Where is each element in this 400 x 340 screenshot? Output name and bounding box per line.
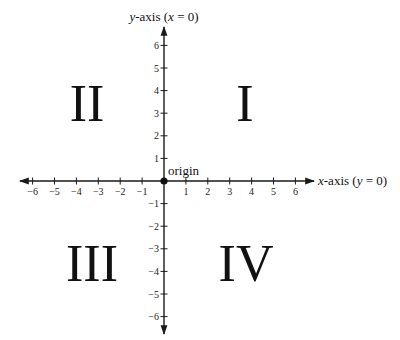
y-tick-label: −6 — [148, 311, 159, 322]
y-tick-label: 1 — [154, 153, 159, 164]
quadrant-i-label: I — [236, 75, 253, 132]
y-tick-label: −2 — [148, 221, 159, 232]
y-tick-label: 6 — [154, 40, 159, 51]
x-tick-label: −2 — [115, 186, 126, 197]
y-axis-title-text: -axis ( — [135, 9, 168, 24]
y-axis-title: y-axis (x = 0) — [127, 9, 198, 24]
y-tick-label: 3 — [154, 108, 159, 119]
x-tick-label: 6 — [293, 186, 298, 197]
y-tick-label: −5 — [148, 289, 159, 300]
x-tick-label: −4 — [71, 186, 82, 197]
y-tick-label: −4 — [148, 266, 159, 277]
x-tick-label: 3 — [227, 186, 232, 197]
y-tick-label: 4 — [154, 85, 159, 96]
coordinate-plane: −6−5−4−3−2−1123456 654321−1−2−3−4−5−6 or… — [0, 0, 400, 340]
x-tick-label: −1 — [137, 186, 148, 197]
y-tick-label: 5 — [154, 63, 159, 74]
quadrant-ii-label: II — [70, 75, 105, 132]
origin-point — [160, 177, 167, 184]
x-tick-label: 5 — [271, 186, 276, 197]
x-tick-label: −3 — [93, 186, 104, 197]
y-tick-label: −1 — [148, 198, 159, 209]
x-axis-title: x-axis (y = 0) — [317, 173, 387, 188]
y-axis-title-eq-rest: = 0) — [174, 9, 199, 24]
quadrant-iii-label: III — [66, 235, 118, 292]
x-tick-label: 2 — [205, 186, 210, 197]
x-tick-label: −5 — [49, 186, 60, 197]
x-tick-label: −6 — [27, 186, 38, 197]
y-tick-label: 2 — [154, 130, 159, 141]
x-axis-title-text: -axis ( — [324, 173, 357, 188]
origin-label: origin — [168, 163, 200, 178]
y-tick-label: −3 — [148, 243, 159, 254]
x-axis-title-eq-rest: = 0) — [362, 173, 387, 188]
quadrant-iv-label: IV — [219, 235, 274, 292]
x-tick-label: 1 — [183, 186, 188, 197]
x-tick-label: 4 — [249, 186, 254, 197]
